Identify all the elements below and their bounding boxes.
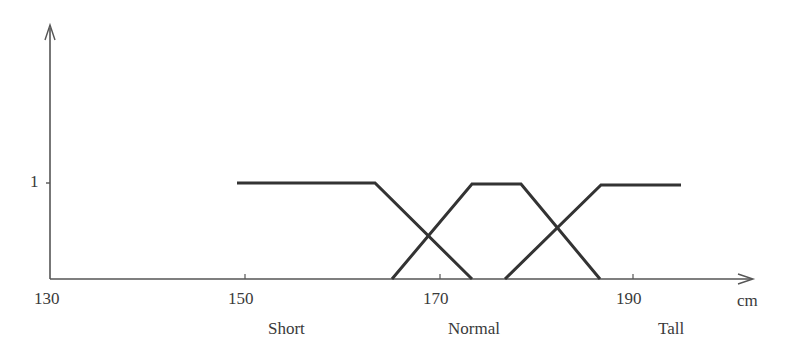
x-tick-label-190: 190 <box>616 289 642 309</box>
x-tick-label-130: 130 <box>34 289 60 309</box>
series-short <box>237 183 472 279</box>
y-tick-label-1: 1 <box>30 172 39 192</box>
x-axis-unit-label: cm <box>737 291 758 311</box>
x-tick-label-170: 170 <box>423 289 449 309</box>
set-label-normal: Normal <box>448 319 500 339</box>
series-tall <box>505 185 681 279</box>
set-label-short: Short <box>268 319 305 339</box>
chart-canvas <box>0 0 791 361</box>
set-label-tall: Tall <box>658 319 684 339</box>
x-tick-label-150: 150 <box>228 289 254 309</box>
